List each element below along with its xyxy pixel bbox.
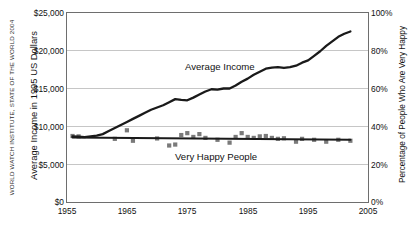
x-tick-1955: 1955: [47, 206, 87, 216]
x-axis-ticks: 1955 1965 1975 1985 1995 2005: [0, 0, 416, 237]
x-tick-1985: 1985: [228, 206, 268, 216]
x-tick-2005: 2005: [348, 206, 388, 216]
very-happy-people-label: Very Happy People: [175, 151, 257, 162]
x-tick-1965: 1965: [107, 206, 147, 216]
average-income-label: Average Income: [185, 61, 255, 72]
chart-figure: World Watch Institute, State of the Worl…: [0, 0, 416, 237]
x-tick-1975: 1975: [167, 206, 207, 216]
x-tick-1995: 1995: [288, 206, 328, 216]
